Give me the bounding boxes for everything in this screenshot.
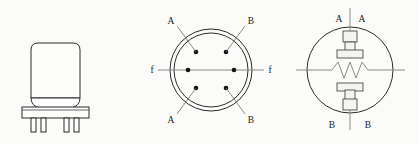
pinout-label-a-top: A (168, 16, 175, 26)
tube-pin-2 (41, 118, 46, 132)
tube-pin-4 (74, 118, 79, 132)
tube-base-plate (22, 107, 89, 118)
schematic-bottom-post (345, 90, 355, 100)
pinout-label-b-top: B (248, 16, 254, 26)
tube-outline-view (22, 43, 89, 132)
schematic-label-b-left: B (329, 120, 335, 130)
internal-schematic-view: A A B B (296, 8, 405, 130)
schematic-label-a-left: A (336, 14, 343, 24)
tube-pin-1 (31, 118, 36, 132)
tube-pin-3 (64, 118, 69, 132)
pinout-leader-b-bottom (226, 88, 245, 114)
schematic-label-b-right: B (365, 120, 371, 130)
diagram-svg: A B f f A B A A (0, 0, 419, 144)
pinout-pin-f-right (232, 68, 237, 73)
schematic-top-plate (337, 50, 363, 58)
pinout-leader-a-bottom (177, 88, 196, 114)
pinout-label-f-right: f (268, 65, 272, 75)
pinout-label-f-left: f (150, 65, 154, 75)
diagram-canvas: A B f f A B A A (0, 0, 419, 144)
pinout-label-a-bottom: A (168, 115, 175, 125)
pinout-label-b-bottom: B (248, 115, 254, 125)
schematic-bottom-collar (343, 99, 357, 110)
pinout-leader-b-top (226, 26, 245, 52)
schematic-label-a-right: A (359, 14, 366, 24)
tube-envelope-body (31, 43, 80, 98)
schematic-resistor-zigzag (332, 62, 368, 78)
pinout-leader-a-top (177, 26, 196, 52)
base-pinout-view: A B f f A B (150, 16, 272, 125)
schematic-top-collar (343, 31, 357, 42)
pinout-pin-f-left (186, 68, 191, 73)
